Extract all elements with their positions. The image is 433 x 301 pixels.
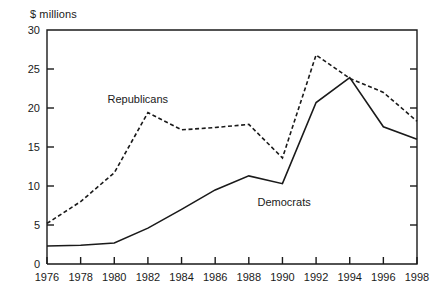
y-tick-label: 30 [28,24,40,36]
axis-frame-box [47,30,417,264]
x-tick-label: 1996 [371,271,395,283]
x-tick-label: 1994 [337,271,361,283]
series-line-democrats [47,78,417,246]
x-tick-label: 1984 [169,271,193,283]
axis-frame [47,30,417,264]
x-tick-label: 1978 [68,271,92,283]
x-axis-tick-labels: 1976197819801982198419861988199019921994… [35,271,429,283]
y-tick-label: 10 [28,180,40,192]
x-tick-label: 1990 [270,271,294,283]
series-inline-labels: RepublicansDemocrats [108,93,312,209]
x-tick-label: 1992 [304,271,328,283]
series-line-republicans [47,55,417,223]
y-axis-tick-labels: 051015202530 [28,24,40,270]
x-tick-label: 1998 [405,271,429,283]
y-tick-label: 5 [34,219,40,231]
y-tick-label: 15 [28,141,40,153]
data-series-group [47,55,417,246]
x-tick-label: 1976 [35,271,59,283]
x-tick-label: 1980 [102,271,126,283]
series-label-democrats: Democrats [258,196,312,208]
axis-tick-marks [47,69,417,264]
x-tick-label: 1988 [237,271,261,283]
series-label-republicans: Republicans [108,93,169,105]
y-tick-label: 20 [28,102,40,114]
x-tick-label: 1982 [136,271,160,283]
line-chart-svg: 051015202530 197619781980198219841986198… [0,0,433,301]
y-tick-label: 25 [28,63,40,75]
chart-container: $ millions 051015202530 1976197819801982… [0,0,433,301]
x-tick-label: 1986 [203,271,227,283]
y-tick-label: 0 [34,258,40,270]
